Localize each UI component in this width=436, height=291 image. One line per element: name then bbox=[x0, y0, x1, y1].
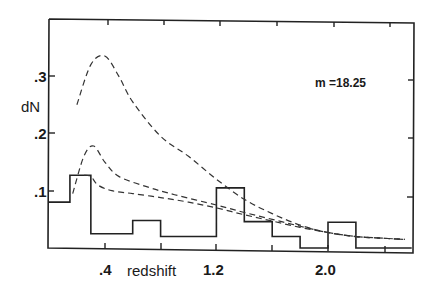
y-tick-label-0.1: .1 bbox=[34, 183, 47, 200]
x-tick-label-1.2: 1.2 bbox=[203, 261, 224, 278]
plot-frame bbox=[48, 19, 414, 253]
x-tick-label-2.0: 2.0 bbox=[315, 261, 336, 278]
y-axis-label: dN bbox=[21, 98, 40, 115]
magnitude-annotation: m =18.25 bbox=[315, 76, 366, 90]
x-tick-label-0.4: .4 bbox=[99, 261, 112, 278]
y-tick-label-0.2: .2 bbox=[34, 125, 47, 142]
redshift-distribution-chart: .3 dN .2 .1 .4 redshift 1.2 2.0 m =18.25 bbox=[0, 0, 436, 291]
y-tick-label-0.3: .3 bbox=[34, 68, 47, 85]
x-axis-label: redshift bbox=[127, 262, 177, 279]
